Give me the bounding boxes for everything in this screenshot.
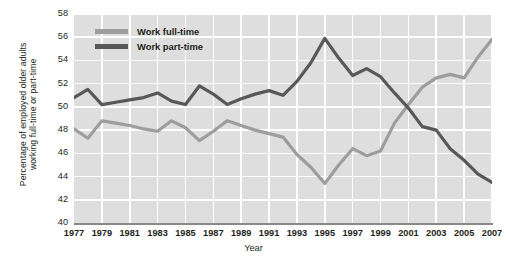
legend-swatch-full-time <box>95 29 128 33</box>
y-axis-title-line-1: Percentage of employed older adults <box>18 8 28 220</box>
y-tick-label: 42 <box>44 194 68 204</box>
legend-item: Work part-time <box>95 39 203 54</box>
legend-item: Work full-time <box>95 24 203 39</box>
chart-legend: Work full-timeWork part-time <box>95 24 203 54</box>
y-tick-label: 50 <box>44 101 68 111</box>
y-tick-label: 48 <box>44 124 68 134</box>
y-axis-title-line-2: working full-time or part-time <box>28 8 38 220</box>
x-tick-label: 2007 <box>475 228 507 238</box>
chart-figure: Percentage of employed older adults work… <box>0 0 507 261</box>
y-tick-label: 44 <box>44 171 68 181</box>
legend-swatch-part-time <box>95 44 128 48</box>
series-line-part-time <box>74 38 492 182</box>
y-tick-label: 46 <box>44 147 68 157</box>
y-tick-label: 58 <box>44 8 68 18</box>
y-tick-label: 40 <box>44 217 68 227</box>
y-axis-title: Percentage of employed older adults work… <box>18 8 39 220</box>
y-tick-label: 54 <box>44 54 68 64</box>
x-axis-line <box>74 223 493 225</box>
legend-label: Work full-time <box>137 26 199 37</box>
series-line-full-time <box>74 40 492 184</box>
y-tick-label: 52 <box>44 78 68 88</box>
x-axis-title: Year <box>0 243 507 253</box>
legend-label: Work part-time <box>137 41 203 52</box>
y-tick-label: 56 <box>44 31 68 41</box>
